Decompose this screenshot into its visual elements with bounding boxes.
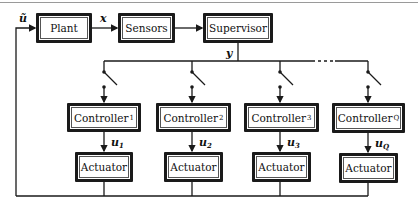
actuator-3-label: Actuator xyxy=(258,161,304,173)
actuator-3-block: Actuator xyxy=(252,152,311,182)
controller-3-block: Controller3 xyxy=(244,103,319,132)
controller-1-block: Controller1 xyxy=(67,103,141,132)
uq-label: uQ xyxy=(375,138,389,150)
feedback-line xyxy=(16,28,35,196)
actuator-1-label: Actuator xyxy=(81,161,127,173)
controller-3-label: Controller xyxy=(251,112,306,124)
plant-label: Plant xyxy=(50,22,78,34)
switch-1 xyxy=(104,61,117,102)
controller-2-label: Controller xyxy=(163,112,218,124)
controller-1-index: 1 xyxy=(130,114,134,122)
actuator-q-block: Actuator xyxy=(339,153,398,183)
u3-label: u3 xyxy=(287,137,300,149)
u-tilde-label: ũ xyxy=(19,13,27,24)
actuator-q-label: Actuator xyxy=(345,162,391,174)
y-label: y xyxy=(226,48,232,59)
controller-3-index: 3 xyxy=(307,114,311,122)
controller-q-label: Controller xyxy=(338,112,393,124)
sensors-block: Sensors xyxy=(118,13,175,43)
sensors-label: Sensors xyxy=(125,22,167,34)
supervisor-block: Supervisor xyxy=(203,13,273,43)
u1-label: u1 xyxy=(111,137,124,149)
switch-q xyxy=(368,61,381,102)
supervisor-label: Supervisor xyxy=(209,22,267,34)
controller-q-index: Q xyxy=(393,114,399,122)
switch-3 xyxy=(280,61,293,102)
actuator-2-label: Actuator xyxy=(170,161,216,173)
controller-1-label: Controller xyxy=(74,112,129,124)
u2-label: u2 xyxy=(199,137,212,149)
actuator-2-block: Actuator xyxy=(164,152,223,182)
controller-2-index: 2 xyxy=(219,114,223,122)
controller-q-block: ControllerQ xyxy=(332,103,405,133)
switch-2 xyxy=(192,61,205,102)
actuator-1-block: Actuator xyxy=(75,152,133,182)
controller-2-block: Controller2 xyxy=(156,103,231,132)
x-label: x xyxy=(100,13,107,24)
plant-block: Plant xyxy=(36,13,92,43)
